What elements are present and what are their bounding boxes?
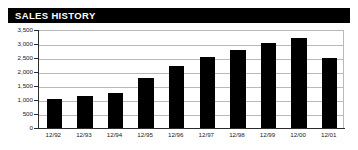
x-axis-tick-label: 12/00 — [284, 132, 312, 138]
y-axis-tick-label: 2,000 — [9, 69, 33, 75]
bar-12-97 — [200, 57, 215, 128]
x-axis-tick-label: 12/92 — [39, 132, 67, 138]
bar-12-92 — [47, 99, 62, 128]
x-axis-tick-label: 12/99 — [254, 132, 282, 138]
y-axis-tick-mark — [34, 44, 38, 45]
bar-12-01 — [322, 58, 337, 128]
y-axis-tick-label: 3,000 — [9, 41, 33, 47]
bar-12-00 — [291, 38, 306, 128]
x-axis-tick-label: 12/95 — [131, 132, 159, 138]
y-axis-tick-mark — [34, 128, 38, 129]
y-axis-tick-mark — [34, 114, 38, 115]
x-axis-line — [38, 128, 345, 129]
bar-12-96 — [169, 66, 184, 128]
x-axis-tick-label: 12/94 — [101, 132, 129, 138]
y-axis-tick-mark — [34, 72, 38, 73]
bar-chart: 05001,0001,5002,0002,5003,0003,500 12/92… — [8, 26, 350, 142]
y-axis-tick-label: 2,500 — [9, 55, 33, 61]
y-axis-tick-label: 1,500 — [9, 83, 33, 89]
bar-series — [39, 30, 344, 128]
page-title: SALES HISTORY — [15, 11, 96, 21]
bar-12-98 — [230, 50, 245, 128]
widget-title-bar: SALES HISTORY — [8, 8, 350, 23]
y-axis-tick-mark — [34, 100, 38, 101]
bar-12-93 — [77, 96, 92, 128]
y-axis-tick-label: 0 — [9, 125, 33, 131]
x-axis-tick-label: 12/97 — [192, 132, 220, 138]
y-axis-tick-mark — [34, 86, 38, 87]
bar-12-94 — [108, 93, 123, 128]
bar-12-95 — [138, 78, 153, 128]
x-axis-tick-label: 12/98 — [223, 132, 251, 138]
x-axis-tick-label: 12/01 — [315, 132, 343, 138]
bar-12-99 — [261, 43, 276, 128]
y-axis-labels: 05001,0001,5002,0002,5003,0003,500 — [8, 26, 33, 142]
y-axis-tick-label: 3,500 — [9, 27, 33, 33]
y-axis-tick-label: 500 — [9, 111, 33, 117]
sales-history-widget: SALES HISTORY 05001,0001,5002,0002,5003,… — [0, 0, 358, 150]
y-axis-tick-label: 1,000 — [9, 97, 33, 103]
x-axis-tick-label: 12/93 — [70, 132, 98, 138]
x-axis-tick-label: 12/96 — [162, 132, 190, 138]
y-axis-tick-mark — [34, 58, 38, 59]
y-axis-tick-mark — [34, 30, 38, 31]
